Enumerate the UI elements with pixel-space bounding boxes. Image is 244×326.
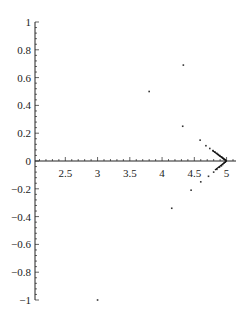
x-tick-label: 3 (95, 167, 101, 179)
y-tick-label: −0.4 (11, 211, 31, 223)
y-tick-label: −0.2 (11, 183, 31, 195)
x-tick-label: 3.5 (123, 167, 137, 179)
y-tick-label: 0.6 (17, 72, 31, 84)
scatter-plot: 10.80.60.40.20−0.2−0.4−0.6−0.8−12.533.54… (0, 0, 244, 326)
y-tick-label: 0.4 (17, 99, 31, 111)
data-point (148, 91, 150, 93)
y-tick-label: 0.2 (17, 127, 31, 139)
x-tick-label: 4.5 (187, 167, 201, 179)
y-tick-label: −0.6 (11, 238, 31, 250)
data-point (205, 145, 207, 147)
data-point (199, 139, 201, 141)
data-points (97, 64, 227, 301)
y-tick-label: 1 (26, 16, 32, 28)
data-point (190, 189, 192, 191)
data-point (171, 207, 173, 209)
y-tick-label: 0.8 (17, 44, 31, 56)
y-tick-label: 0 (26, 155, 32, 167)
y-tick-label: −0.8 (11, 266, 31, 278)
data-point (183, 64, 185, 66)
axes: 10.80.60.40.20−0.2−0.4−0.6−0.8−12.533.54… (11, 16, 236, 306)
data-point (200, 181, 202, 183)
data-point (97, 299, 99, 301)
converging-upper (212, 151, 226, 161)
x-tick-label: 5 (224, 167, 230, 179)
y-tick-label: −1 (19, 294, 31, 306)
data-point (213, 171, 215, 173)
data-point (208, 175, 210, 177)
x-tick-label: 4 (159, 167, 165, 179)
x-tick-label: 2.5 (58, 167, 72, 179)
data-point (182, 125, 184, 127)
data-point (209, 148, 211, 150)
